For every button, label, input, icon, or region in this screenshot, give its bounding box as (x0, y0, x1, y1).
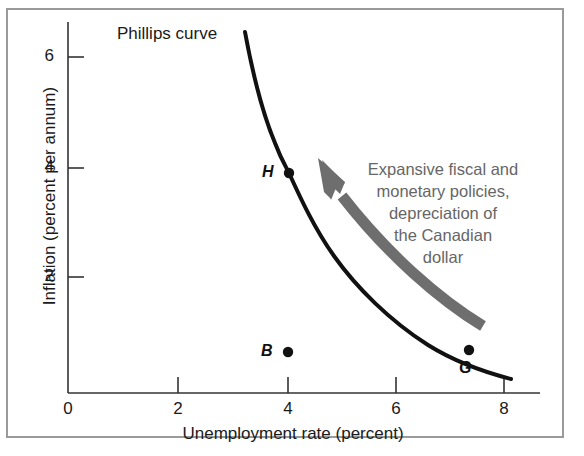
x-axis-title: Unemployment rate (percent) (68, 424, 518, 444)
annotation-line-4: the Canadian (334, 224, 552, 246)
x-tick-label-6: 6 (381, 399, 411, 419)
annotation-line-5: dollar (334, 246, 552, 268)
data-point-b (283, 347, 293, 357)
x-tick-label-0: 0 (53, 399, 83, 419)
x-tick-label-8: 8 (489, 399, 519, 419)
y-axis-title: Inflation (percent per annum) (40, 46, 60, 346)
x-tick-label-4: 4 (273, 399, 303, 419)
data-point-g (464, 345, 474, 355)
point-label-h: H (262, 163, 274, 181)
annotation-line-2: monetary policies, (334, 180, 552, 202)
point-label-g: G (459, 359, 471, 377)
policy-annotation-text: Expansive fiscal and monetary policies, … (334, 158, 552, 268)
annotation-line-3: depreciation of (334, 202, 552, 224)
x-tick-label-2: 2 (163, 399, 193, 419)
phillips-curve-label: Phillips curve (117, 24, 217, 44)
point-label-b: B (261, 342, 273, 360)
phillips-curve-figure: 6 4 2 0 2 4 6 8 Inflation (percent per a… (0, 0, 584, 456)
annotation-line-1: Expansive fiscal and (334, 158, 552, 180)
data-point-h (284, 168, 294, 178)
